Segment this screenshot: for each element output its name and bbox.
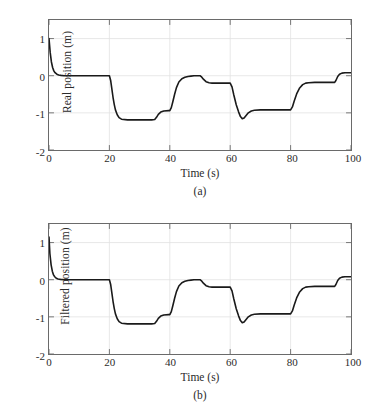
x-tick-label-a-100: 100 — [345, 153, 362, 164]
x-tick-label-b-40: 40 — [165, 357, 176, 368]
y-axis-label-b: Filtered position (m) — [59, 210, 71, 342]
data-line — [49, 39, 351, 120]
x-tick-label-a-40: 40 — [165, 153, 176, 164]
y-tick-label-a-0: 0 — [40, 71, 46, 82]
plot-canvas-a — [49, 20, 351, 150]
x-tick-label-b-80: 80 — [287, 357, 298, 368]
x-tick-label-b-20: 20 — [104, 357, 115, 368]
x-tick-label-b-100: 100 — [345, 357, 362, 368]
panel-b: Filtered position (m) 1 0 -1 -2 0 20 40 … — [0, 204, 374, 408]
x-tick-label-a-0: 0 — [46, 153, 52, 164]
x-tick-label-a-20: 20 — [104, 153, 115, 164]
y-tick-label-a-neg2: -2 — [36, 147, 45, 158]
x-axis-label-b: Time (s) — [48, 371, 352, 383]
panel-a: Real position (m) 1 0 -1 -2 0 20 40 60 8… — [0, 0, 374, 204]
data-line — [49, 237, 351, 324]
y-tick-label-b-1: 1 — [40, 237, 46, 248]
y-tick-label-a-1: 1 — [40, 33, 46, 44]
y-tick-label-b-neg1: -1 — [36, 313, 45, 324]
y-tick-label-a-neg1: -1 — [36, 109, 45, 120]
figure-container: Real position (m) 1 0 -1 -2 0 20 40 60 8… — [0, 0, 374, 408]
subfigure-caption-a: (a) — [48, 185, 352, 197]
plot-area-a: Real position (m) 1 0 -1 -2 0 20 40 60 8… — [48, 19, 352, 151]
x-tick-label-a-60: 60 — [226, 153, 237, 164]
y-tick-label-b-0: 0 — [40, 275, 46, 286]
subfigure-caption-b: (b) — [48, 389, 352, 401]
x-tick-label-b-0: 0 — [46, 357, 52, 368]
x-tick-label-b-60: 60 — [226, 357, 237, 368]
x-axis-label-a: Time (s) — [48, 167, 352, 179]
plot-canvas-b — [49, 224, 351, 354]
y-axis-label-a: Real position (m) — [61, 6, 73, 138]
x-tick-label-a-80: 80 — [287, 153, 298, 164]
y-tick-label-b-neg2: -2 — [36, 351, 45, 362]
plot-area-b: Filtered position (m) 1 0 -1 -2 0 20 40 … — [48, 223, 352, 355]
